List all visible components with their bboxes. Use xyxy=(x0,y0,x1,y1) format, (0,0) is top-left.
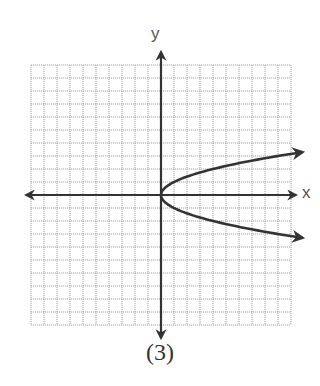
y-axis-label: y xyxy=(151,24,160,44)
graph-canvas xyxy=(0,0,320,386)
x-axis-label: x xyxy=(302,183,311,203)
figure-caption: (3) xyxy=(0,339,320,366)
